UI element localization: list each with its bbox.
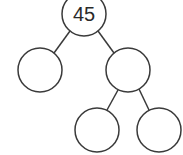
node-right-right bbox=[137, 108, 181, 152]
edge-right-rightleft bbox=[107, 90, 118, 110]
factor-tree-diagram: 45 bbox=[0, 0, 183, 155]
edge-root-right bbox=[98, 31, 114, 53]
edge-right-rightright bbox=[139, 89, 149, 110]
node-root-label: 45 bbox=[73, 3, 95, 25]
node-left bbox=[18, 48, 62, 92]
node-root: 45 bbox=[62, 0, 106, 36]
node-right bbox=[106, 48, 150, 92]
edge-root-left bbox=[54, 31, 70, 53]
node-right-left bbox=[75, 108, 119, 152]
